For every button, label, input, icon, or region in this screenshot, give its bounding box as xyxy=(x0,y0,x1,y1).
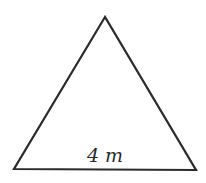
triangle-diagram: 4 m xyxy=(0,0,206,183)
base-length-label: 4 m xyxy=(86,144,123,166)
